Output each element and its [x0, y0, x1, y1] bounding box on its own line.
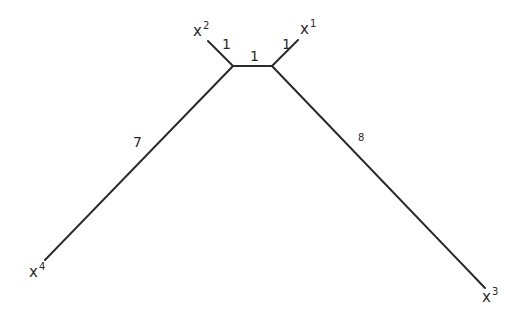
leaf-label-x4: x4 — [29, 265, 45, 280]
tree-diagram — [0, 0, 527, 310]
edge-x4 — [45, 66, 233, 260]
leaf-label-x1: x1 — [300, 22, 316, 37]
edge-weight-x2: 1 — [222, 37, 231, 51]
leaf-sup: 3 — [492, 286, 498, 297]
leaf-base: x — [193, 22, 202, 40]
edge-x3 — [272, 66, 485, 288]
edge-weight-x3: 8 — [358, 133, 364, 143]
leaf-label-x3: x3 — [482, 290, 498, 305]
leaf-label-x2: x2 — [193, 24, 209, 39]
leaf-base: x — [300, 20, 309, 38]
leaf-sup: 2 — [203, 20, 209, 31]
leaf-base: x — [29, 263, 38, 281]
leaf-sup: 4 — [39, 261, 45, 272]
leaf-sup: 1 — [310, 18, 316, 29]
edge-weight-x1: 1 — [282, 37, 291, 51]
leaf-base: x — [482, 288, 491, 306]
edge-weight-internal: 1 — [250, 49, 259, 63]
edge-weight-x4: 7 — [133, 135, 142, 149]
